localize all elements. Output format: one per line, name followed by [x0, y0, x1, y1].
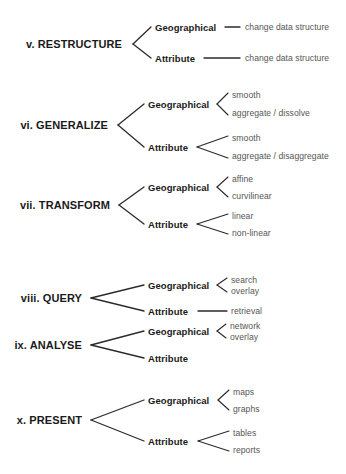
fork-arm-geographical-generalize	[118, 104, 144, 125]
leaf-label-analyse-geographical-leaf-1: network	[230, 321, 260, 331]
leaf-arm-2-present-attribute	[198, 441, 229, 451]
fork-arm-attribute-restructure	[133, 44, 151, 58]
diagram-canvas: v. RESTRUCTUREGeographicalchange data st…	[0, 0, 346, 474]
leaf-label-present-geographical-leaf-2: graphs	[233, 404, 260, 414]
leaf-arm-2-transform-geographical	[217, 187, 228, 197]
leaf-label-present-geographical-leaf-1: maps	[233, 387, 254, 397]
leaf-arm-1-analyse-geographical	[217, 324, 226, 331]
fork-arm-attribute-transform	[119, 205, 144, 224]
fork-arm-attribute-analyse	[91, 345, 144, 358]
leaf-label-transform-geographical-leaf-1: affine	[232, 174, 253, 184]
branch-label-restructure-attribute: Attribute	[155, 53, 195, 64]
operation-label-generalize: vi. GENERALIZE	[20, 119, 108, 131]
leaf-label-present-attribute-leaf-1: tables	[233, 428, 256, 438]
branch-label-query-geographical: Geographical	[148, 280, 209, 291]
fork-arm-attribute-query	[91, 298, 144, 311]
leaf-arm-2-generalize-attribute	[197, 147, 228, 158]
leaf-label-restructure-attribute-leaf-1: change data structure	[245, 53, 329, 63]
leaf-label-restructure-geographical-leaf-1: change data structure	[245, 22, 329, 32]
leaf-label-query-attribute-leaf-1: retrieval	[231, 306, 262, 316]
leaf-label-transform-attribute-leaf-1: linear	[232, 211, 253, 221]
leaf-arm-1-present-attribute	[198, 431, 229, 441]
branch-label-query-attribute: Attribute	[148, 306, 188, 317]
leaf-label-analyse-geographical-leaf-2: overlay	[230, 332, 258, 342]
leaf-arm-2-transform-attribute	[197, 224, 228, 234]
leaf-arm-2-query-geographical	[217, 285, 227, 292]
branch-label-present-attribute: Attribute	[148, 436, 188, 447]
operation-label-query: viii. QUERY	[21, 292, 82, 304]
leaf-arm-2-generalize-geographical	[217, 104, 228, 115]
leaf-arm-2-present-geographical	[218, 400, 229, 410]
leaf-label-present-attribute-leaf-2: reports	[233, 445, 260, 455]
branch-label-restructure-geographical: Geographical	[155, 22, 216, 33]
leaf-label-generalize-attribute-leaf-1: smooth	[232, 133, 260, 143]
operation-label-present: x. PRESENT	[17, 414, 82, 426]
fork-arm-attribute-present	[91, 420, 144, 441]
fork-arm-geographical-restructure	[133, 27, 151, 44]
operation-label-restructure: v. RESTRUCTURE	[26, 38, 122, 50]
fork-arm-attribute-generalize	[118, 125, 144, 147]
operation-label-transform: vii. TRANSFORM	[20, 199, 110, 211]
leaf-arm-1-transform-geographical	[217, 177, 228, 187]
leaf-arm-2-analyse-geographical	[217, 331, 226, 338]
fork-arm-geographical-present	[91, 400, 144, 420]
fork-arm-geographical-analyse	[91, 331, 144, 345]
fork-arm-geographical-transform	[119, 187, 144, 205]
leaf-arm-1-present-geographical	[218, 390, 229, 400]
branch-label-transform-geographical: Geographical	[148, 182, 209, 193]
branch-label-analyse-geographical: Geographical	[148, 326, 209, 337]
leaf-label-query-geographical-leaf-2: overlay	[231, 286, 259, 296]
leaf-label-transform-geographical-leaf-2: curvilinear	[232, 191, 272, 201]
branch-label-analyse-attribute: Attribute	[148, 353, 188, 364]
leaf-label-transform-attribute-leaf-2: non-linear	[232, 228, 271, 238]
fork-arm-geographical-query	[91, 285, 144, 298]
leaf-label-generalize-attribute-leaf-2: aggregate / disaggregate	[232, 151, 329, 161]
branch-label-transform-attribute: Attribute	[148, 219, 188, 230]
branch-label-present-geographical: Geographical	[148, 395, 209, 406]
branch-label-generalize-geographical: Geographical	[148, 99, 209, 110]
leaf-arm-1-generalize-attribute	[197, 136, 228, 147]
branch-label-generalize-attribute: Attribute	[148, 142, 188, 153]
leaf-arm-1-generalize-geographical	[217, 93, 228, 104]
leaf-label-query-geographical-leaf-1: search	[231, 275, 257, 285]
operation-label-analyse: ix. ANALYSE	[14, 339, 82, 351]
leaf-label-generalize-geographical-leaf-1: smooth	[232, 90, 260, 100]
leaf-arm-1-query-geographical	[217, 278, 227, 285]
leaf-arm-1-transform-attribute	[197, 214, 228, 224]
leaf-label-generalize-geographical-leaf-2: aggregate / dissolve	[232, 108, 310, 118]
